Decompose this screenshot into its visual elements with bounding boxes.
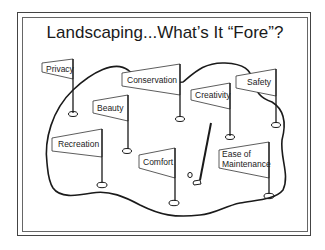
- flag-label-beauty: Beauty: [97, 103, 124, 113]
- golf-club-icon: [193, 123, 211, 185]
- flag-label-safety: Safety: [247, 77, 272, 87]
- flag-label-comfort: Comfort: [143, 157, 174, 167]
- flag-comfort: Comfort: [139, 148, 179, 206]
- flag-label-ease-line2: Maintenance: [222, 159, 271, 169]
- flag-label-ease-line1: Ease of: [222, 149, 251, 159]
- flag-label-conservation: Conservation: [127, 75, 177, 85]
- flag-label-creativity: Creativity: [195, 90, 231, 100]
- golf-ball-icon: [188, 172, 192, 177]
- golf-course-illustration: Privacy Conservation Creativity Safety: [0, 0, 325, 250]
- flag-conservation: Conservation: [122, 64, 185, 122]
- flag-safety: Safety: [236, 69, 281, 128]
- flag-recreation: Recreation: [52, 129, 107, 188]
- flag-ease-of-maintenance: Ease of Maintenance: [219, 142, 274, 199]
- flag-label-recreation: Recreation: [58, 139, 99, 149]
- flag-creativity: Creativity: [191, 83, 235, 140]
- flag-label-privacy: Privacy: [46, 64, 75, 74]
- slide: Landscaping...What’s It “Fore”? Privacy …: [0, 0, 325, 250]
